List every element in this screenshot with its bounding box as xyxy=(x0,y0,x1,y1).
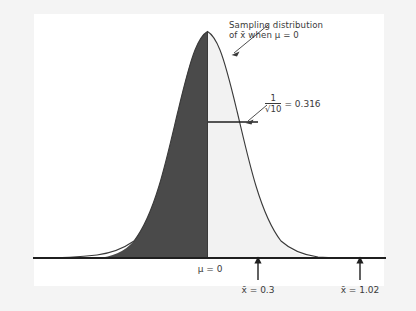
figure-container: Sampling distribution of x̄ when μ = 0 1… xyxy=(0,0,416,311)
standard-error-value: = 0.316 xyxy=(284,99,320,110)
axis-label-mu: μ = 0 xyxy=(198,264,223,274)
fraction-numerator: 1 xyxy=(265,93,281,104)
fraction-denominator: √10 xyxy=(265,104,281,114)
shaded-area xyxy=(38,32,208,259)
curve-label-annotation: Sampling distribution of x̄ when μ = 0 xyxy=(229,20,323,41)
axis-label-xbar-alternate: x̄ = 1.02 xyxy=(341,285,380,295)
standard-error-annotation: 1 √10 = 0.316 xyxy=(265,93,321,115)
standard-error-fraction: 1 √10 xyxy=(265,93,281,115)
unshaded-area xyxy=(208,32,382,259)
curve-label-line-2: of x̄ when μ = 0 xyxy=(229,30,323,40)
axis-label-xbar-observed: x̄ = 0.3 xyxy=(242,285,275,295)
curve-label-line-1: Sampling distribution xyxy=(229,20,323,30)
